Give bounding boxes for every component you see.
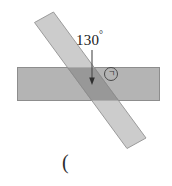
region-mark-circle: ㄱ: [104, 67, 118, 81]
region-mark-label: ㄱ: [108, 70, 115, 78]
angle-label: 130°: [76, 31, 103, 48]
figure-canvas: [0, 0, 172, 186]
geometry-figure: 130° ㄱ (: [0, 0, 172, 186]
angle-value: 130: [76, 32, 99, 48]
caption-parenthesis: (: [62, 152, 69, 172]
degree-symbol: °: [99, 29, 103, 40]
